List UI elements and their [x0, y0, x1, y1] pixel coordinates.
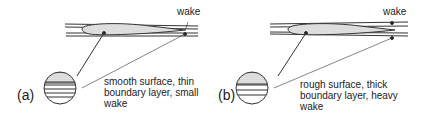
caption-a-line-2: boundary layer, small — [104, 87, 199, 98]
panel-label-b: (b) — [218, 87, 235, 103]
caption-b-line-2: boundary layer, heavy — [300, 90, 398, 101]
caption-b-line-1: rough surface, thick — [300, 79, 398, 90]
caption-b-line-3: wake — [300, 101, 398, 112]
caption-a-line-1: smooth surface, thin — [104, 76, 199, 87]
wake-label-b: wake — [383, 6, 406, 17]
wake-label-a: wake — [177, 6, 200, 17]
panel-label-a: (a) — [17, 87, 34, 103]
caption-a-line-3: wake — [104, 98, 199, 109]
caption-a: smooth surface, thin boundary layer, sma… — [104, 76, 199, 109]
caption-b: rough surface, thick boundary layer, hea… — [300, 79, 398, 112]
